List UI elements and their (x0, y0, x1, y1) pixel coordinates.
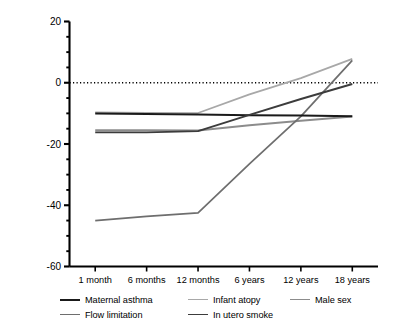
legend-row: Flow limitationIn utero smoke (60, 307, 400, 322)
legend-label: Flow limitation (85, 310, 142, 320)
line-chart-plot: 200-20-40-60 1 month6 months12 months6 y… (0, 0, 403, 331)
legend-item[interactable]: In utero smoke (188, 307, 290, 322)
legend-label: Maternal asthma (85, 295, 153, 305)
legend-item[interactable]: Infant atopy (188, 292, 290, 307)
data-series-line (95, 60, 352, 220)
legend-line-swatch (290, 299, 310, 300)
data-series-line (95, 113, 352, 116)
y-axis-tick-label: -20 (47, 139, 62, 150)
legend-item[interactable]: Flow limitation (60, 307, 188, 322)
y-axis-tick-label: 20 (50, 16, 62, 27)
data-series-line (95, 59, 352, 113)
legend-line-swatch (60, 314, 80, 315)
chart-legend: Maternal asthmaInfant atopyMale sex Flow… (60, 292, 400, 330)
y-axis-tick-label: -60 (47, 261, 62, 272)
y-axis-tick-label: -40 (47, 200, 62, 211)
x-axis-tick-label: 12 months (177, 275, 220, 285)
y-axis-tick-labels: 200-20-40-60 (47, 16, 62, 272)
x-axis-tick-label: 1 month (79, 275, 112, 285)
x-axis-tick-labels: 1 month6 months12 months6 years12 years1… (79, 275, 371, 285)
x-axis-tick-label: 6 months (128, 275, 166, 285)
legend-label: Infant atopy (213, 295, 260, 305)
legend-label: Male sex (315, 295, 351, 305)
legend-item[interactable]: Maternal asthma (60, 292, 188, 307)
legend-line-swatch (188, 299, 208, 300)
chart-figure: Mean difference in % predicted lung func… (0, 0, 403, 331)
legend-item[interactable]: Male sex (290, 292, 390, 307)
legend-line-swatch (188, 314, 208, 315)
legend-label: In utero smoke (213, 310, 273, 320)
x-axis-tick-label: 12 years (283, 275, 319, 285)
x-axis-tick-label: 6 years (234, 275, 265, 285)
legend-line-swatch (60, 299, 80, 301)
legend-row: Maternal asthmaInfant atopyMale sex (60, 292, 400, 307)
data-series-line (95, 84, 352, 132)
x-axis-tick-label: 18 years (335, 275, 371, 285)
y-axis-tick-label: 0 (55, 77, 61, 88)
